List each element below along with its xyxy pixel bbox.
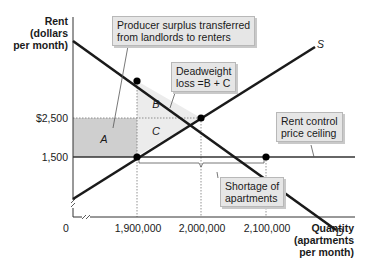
x-axis-label-line2: (apartments bbox=[294, 234, 354, 246]
y-axis-label-line2: (dollars bbox=[30, 27, 68, 39]
y-axis-label-line1: Rent bbox=[45, 15, 69, 27]
callout-shortage: Shortage of apartments bbox=[220, 177, 284, 207]
x-tick-1900000: 1,900,000 bbox=[115, 222, 162, 234]
region-a-label: A bbox=[99, 133, 107, 145]
callout-producer-surplus-line1: Producer surplus transferred bbox=[117, 19, 250, 31]
supply-label: S bbox=[317, 38, 324, 50]
region-c-label: C bbox=[152, 125, 160, 137]
callout-deadweight-loss: Deadweight loss =B + C bbox=[171, 62, 236, 92]
y-axis-break-icon bbox=[71, 199, 75, 207]
y-axis-label-line3: per month) bbox=[13, 39, 68, 51]
point-equilibrium bbox=[197, 114, 204, 121]
x-axis-label-line3: per month) bbox=[299, 246, 354, 258]
callout-shortage-line2: apartments bbox=[225, 192, 279, 204]
x-axis-label-line1: Quantity bbox=[311, 222, 354, 234]
callout-deadweight-line2: loss =B + C bbox=[176, 77, 231, 89]
callout-rent-control-line1: Rent control bbox=[281, 115, 338, 127]
x-tick-0: 0 bbox=[63, 222, 69, 234]
leader-rent-control bbox=[311, 145, 314, 157]
leader-producer-surplus bbox=[113, 46, 128, 128]
callout-deadweight-line1: Deadweight bbox=[176, 65, 231, 77]
callout-rent-control-line2: price ceiling bbox=[281, 127, 338, 139]
area-bc bbox=[137, 81, 201, 156]
point-demand-at-ceiling bbox=[262, 153, 269, 160]
point-demand-at-1900000 bbox=[133, 77, 140, 84]
point-supply-at-ceiling bbox=[133, 153, 140, 160]
y-tick-2500: $2,500 bbox=[36, 112, 68, 124]
y-tick-1500: 1,500 bbox=[42, 151, 68, 163]
callout-shortage-line1: Shortage of bbox=[225, 180, 279, 192]
callout-producer-surplus-line2: from landlords to renters bbox=[117, 31, 250, 43]
callout-producer-surplus: Producer surplus transferred from landlo… bbox=[112, 16, 255, 46]
leader-shortage bbox=[217, 172, 218, 178]
x-axis-break-icon bbox=[82, 215, 90, 219]
x-tick-2100000: 2,100,000 bbox=[244, 222, 291, 234]
x-tick-2000000: 2,000,000 bbox=[179, 222, 226, 234]
region-b-label: B bbox=[152, 98, 159, 110]
callout-rent-control: Rent control price ceiling bbox=[276, 112, 343, 142]
